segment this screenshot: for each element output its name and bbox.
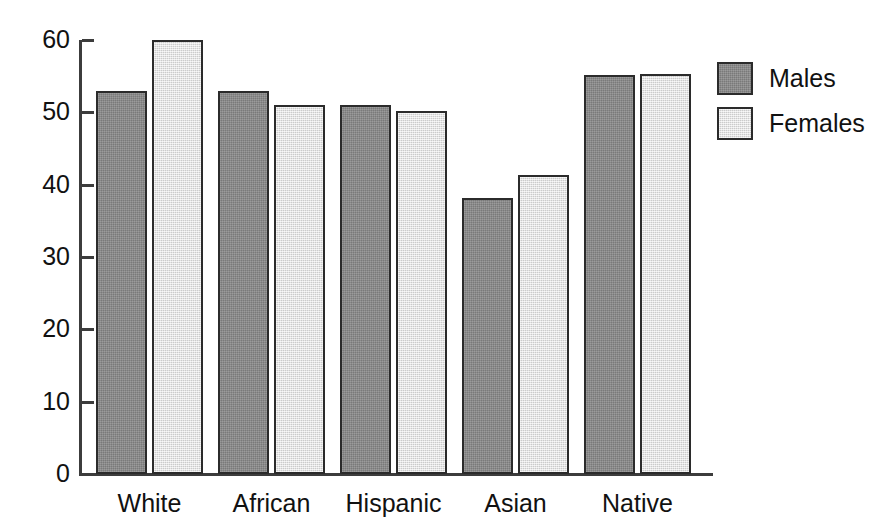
y-axis-tick-label: 60 bbox=[14, 27, 70, 52]
bar-asian-females bbox=[518, 175, 569, 474]
bar-african-females bbox=[274, 105, 325, 474]
bar-native-females bbox=[640, 74, 691, 474]
legend-item-males: Males bbox=[717, 62, 867, 107]
y-axis-tick-label-wrap: 40 bbox=[0, 172, 70, 197]
y-axis-tick-label-wrap: 30 bbox=[0, 244, 70, 269]
y-axis-tick-label: 40 bbox=[14, 172, 70, 197]
y-axis-tick-label: 10 bbox=[14, 389, 70, 414]
x-axis-label-asian: Asian bbox=[448, 489, 583, 517]
legend-swatch-females-icon bbox=[717, 107, 753, 140]
bar-african-males bbox=[218, 91, 269, 474]
y-axis-tick-label: 30 bbox=[14, 244, 70, 269]
y-axis-tick-label-wrap: 60 bbox=[0, 27, 70, 52]
y-axis-tick-label: 50 bbox=[14, 99, 70, 124]
y-axis-tick-label-wrap: 0 bbox=[0, 461, 70, 486]
y-axis-tick-label: 0 bbox=[14, 461, 70, 486]
legend-swatch-males-icon bbox=[717, 62, 753, 95]
legend-label-males: Males bbox=[769, 63, 836, 93]
y-axis-tick-label-wrap: 10 bbox=[0, 389, 70, 414]
y-axis-tick-label-wrap: 50 bbox=[0, 99, 70, 124]
y-axis-tick-label: 20 bbox=[14, 316, 70, 341]
x-axis-label-hispanic: Hispanic bbox=[326, 489, 461, 517]
x-axis-label-white: White bbox=[82, 489, 217, 517]
chart-legend: Males Females bbox=[717, 62, 867, 152]
plot-area bbox=[79, 40, 713, 474]
bar-hispanic-females bbox=[396, 111, 447, 474]
legend-item-females: Females bbox=[717, 107, 867, 152]
legend-label-females: Females bbox=[769, 108, 865, 138]
y-axis-tick-label-wrap: 20 bbox=[0, 316, 70, 341]
bar-chart: 0102030405060 WhiteAfricanHispanicAsianN… bbox=[0, 0, 876, 532]
bar-native-males bbox=[584, 75, 635, 474]
bar-hispanic-males bbox=[340, 105, 391, 474]
bar-white-females bbox=[152, 40, 203, 474]
bar-white-males bbox=[96, 91, 147, 474]
x-axis-label-native: Native bbox=[570, 489, 705, 517]
bar-asian-males bbox=[462, 198, 513, 474]
x-axis-label-african: African bbox=[204, 489, 339, 517]
